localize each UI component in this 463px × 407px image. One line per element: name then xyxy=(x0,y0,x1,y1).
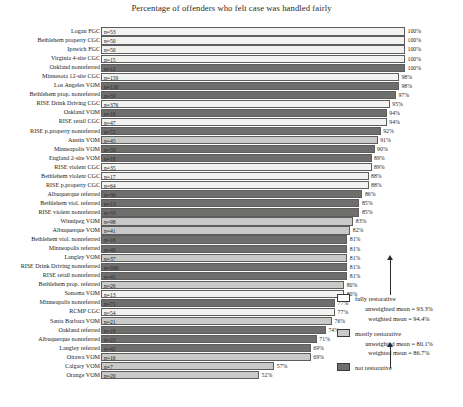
bar: n=72 xyxy=(101,127,381,135)
category-label: Bethlehem viol. referred xyxy=(0,199,100,208)
bar: n=13 xyxy=(101,199,359,207)
bar: n=30 xyxy=(101,91,396,99)
bar: n=15 xyxy=(101,55,405,63)
category-label: Sonoma VOM xyxy=(0,289,100,298)
bar-track: n=4181% xyxy=(101,272,405,280)
up-arrow-fully-restorative xyxy=(386,255,395,295)
bar: n=35 xyxy=(101,163,372,171)
bar: n=50 xyxy=(101,36,405,44)
bar-track: n=12100% xyxy=(101,64,405,72)
bar-track: n=9883% xyxy=(101,217,405,225)
category-label: Ipswich FGC xyxy=(0,45,100,54)
bar: n=50 xyxy=(101,145,375,153)
bar: n=98 xyxy=(101,217,353,225)
legend-label: fully restorative xyxy=(355,293,396,304)
category-label: Winnipeg VOM xyxy=(0,217,100,226)
legend-weighted-mean: weighted mean = 86.7% xyxy=(337,348,463,358)
category-label: RISE Drink Driving nonreferred xyxy=(0,262,100,271)
bar: n=349 xyxy=(101,263,347,271)
legend-item-not: not restorative xyxy=(337,362,463,373)
category-label: Bethlehem violent CGC xyxy=(0,172,100,181)
bar-track: n=1385% xyxy=(101,199,405,207)
category-label: Oakland referred xyxy=(0,326,100,335)
bar-track: n=2680% xyxy=(101,281,405,289)
bar: n=16 xyxy=(101,353,311,361)
bar: n=17 xyxy=(101,172,369,180)
bar: n=19 xyxy=(101,326,326,334)
chart-row: RISE Drink Driving CGCn=37695% xyxy=(0,99,463,108)
bar: n=50 xyxy=(101,45,405,53)
chart-row: Minneapolis VOMn=5090% xyxy=(0,145,463,154)
bar-track: n=1788% xyxy=(101,172,405,180)
legend-head: mostly restorative xyxy=(337,328,463,339)
bar-track: n=15100% xyxy=(101,55,405,63)
bar-track: n=3781% xyxy=(101,254,405,262)
chart-row: Los Angeles VOMn=13098% xyxy=(0,81,463,90)
chart-row: Logan FGCn=53100% xyxy=(0,27,463,36)
bar: n=36 xyxy=(101,190,362,198)
bar-track: n=6488% xyxy=(101,181,405,189)
bar-track: n=7292% xyxy=(101,127,405,135)
category-label: Minneapolis nonreferred xyxy=(0,298,100,307)
bar: n=16 xyxy=(101,109,387,117)
category-label: Ottawa VOM xyxy=(0,353,100,362)
category-label: Minneapolis referred xyxy=(0,244,100,253)
category-label: Bethlehem prop. referred xyxy=(0,280,100,289)
bar-track: n=1889% xyxy=(101,154,405,162)
category-label: RCMP CGC xyxy=(0,307,100,316)
category-label: RISE p.property nonreferred xyxy=(0,127,100,136)
category-label: RISE Drink Driving CGC xyxy=(0,99,100,108)
bar: n=54 xyxy=(101,308,335,316)
bar: n=41 xyxy=(101,226,350,234)
arrow-shaft xyxy=(390,259,391,295)
chart-row: Ipswich FGCn=50100% xyxy=(0,45,463,54)
category-label: Minneapolis VOM xyxy=(0,145,100,154)
category-label: Bethlehem viol. nonreferred xyxy=(0,235,100,244)
category-label: Albuquerque VOM xyxy=(0,226,100,235)
bar: n=42 xyxy=(101,344,311,352)
chart-row: England 2-site VOMn=1889% xyxy=(0,154,463,163)
bar: n=16 xyxy=(101,235,347,243)
bar: n=21 xyxy=(101,317,332,325)
bar-track: n=53100% xyxy=(101,27,405,35)
bar-track: n=50100% xyxy=(101,36,405,44)
legend-unweighted-mean: unweighted mean = 80.1% xyxy=(337,339,463,349)
bar-track: n=4794% xyxy=(101,118,405,126)
legend-label: not restorative xyxy=(355,362,392,373)
category-label: England 2-site VOM xyxy=(0,154,100,163)
category-label: Santa Barbara VOM xyxy=(0,317,100,326)
category-label: Albuquerque nonreferred xyxy=(0,335,100,344)
category-label: Albuquerque referred xyxy=(0,190,100,199)
bar: n=7 xyxy=(101,362,274,370)
bar-track: n=5090% xyxy=(101,145,405,153)
category-label: Bethlehem prop. nonreferred xyxy=(0,90,100,99)
legend-weighted-mean: weighted mean = 94.4% xyxy=(337,314,463,324)
bar-n-label: n=20 xyxy=(104,372,116,380)
category-label: RISE violent CGC xyxy=(0,163,100,172)
bar-track: n=1694% xyxy=(101,109,405,117)
bar: n=45 xyxy=(101,136,378,144)
chart-title: Percentage of offenders who felt case wa… xyxy=(0,3,463,13)
chart-row: RISE violent CGCn=3589% xyxy=(0,163,463,172)
bar: n=53 xyxy=(101,27,405,35)
chart-row: Virginia 4-site CGCn=15100% xyxy=(0,54,463,63)
bar: n=40 xyxy=(101,245,347,253)
legend-swatch-icon xyxy=(337,294,350,302)
chart-row: RISE p.property CGCn=6488% xyxy=(0,181,463,190)
bar-track: n=50100% xyxy=(101,45,405,53)
category-label: RISE violent nonreferred xyxy=(0,208,100,217)
legend-swatch-icon xyxy=(337,329,350,337)
legend-label: mostly restorative xyxy=(355,328,401,339)
chart-row: Albuquerque VOMn=4182% xyxy=(0,226,463,235)
category-label: Minnesota 12-site CGC xyxy=(0,72,100,81)
chart-row: Bethlehem viol. referredn=1385% xyxy=(0,199,463,208)
bar: n=37 xyxy=(101,254,347,262)
bar: n=23 xyxy=(101,335,317,343)
category-label: Bethlehem property CGC xyxy=(0,36,100,45)
bar-track: n=13098% xyxy=(101,82,405,90)
bar: n=64 xyxy=(101,181,369,189)
category-label: Oakland VOM xyxy=(0,108,100,117)
bar: n=12 xyxy=(101,64,405,72)
chart-row: Oakland nonreferredn=12100% xyxy=(0,63,463,72)
chart-row: Bethlehem property CGCn=50100% xyxy=(0,36,463,45)
